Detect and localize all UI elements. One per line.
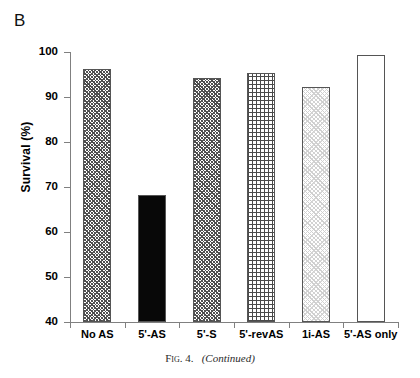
x-tick-mark (125, 322, 126, 328)
y-tick-label: 100 (26, 45, 58, 57)
bar-5-s (193, 78, 221, 322)
x-tick-mark (234, 322, 235, 328)
y-tick-label: 60 (26, 225, 58, 237)
x-tick-mark (398, 322, 399, 328)
bar-5-as (138, 195, 166, 322)
y-axis-title: Survival (%) (19, 87, 33, 227)
x-tick-label: 5'-revAS (239, 328, 283, 340)
caption-continued: (Continued) (202, 352, 255, 364)
bar-5-as-only (357, 55, 385, 322)
y-tick-label: 80 (26, 135, 58, 147)
x-tick-label: 5'-AS (138, 328, 166, 340)
x-tick-label: 5'-S (197, 328, 217, 340)
figure-panel-b: B Survival (%) 405060708090100 Fig. 4. (… (0, 0, 420, 378)
x-tick-label: No AS (81, 328, 114, 340)
x-tick-mark (289, 322, 290, 328)
bar-1i-as (302, 87, 330, 322)
x-tick-label: 1i-AS (302, 328, 330, 340)
bar-5-revas (247, 73, 275, 322)
y-tick-label: 70 (26, 180, 58, 192)
x-tick-mark (70, 322, 71, 328)
y-tick-label: 90 (26, 90, 58, 102)
x-tick-label: 5'-AS only (344, 328, 397, 340)
y-tick-label: 40 (26, 315, 58, 327)
y-tick-label: 50 (26, 270, 58, 282)
bar-no-as (83, 69, 111, 322)
caption-fig-number: Fig. 4. (165, 352, 193, 364)
x-tick-mark (179, 322, 180, 328)
figure-caption: Fig. 4. (Continued) (0, 352, 420, 364)
plot-area (70, 52, 398, 322)
panel-label-b: B (14, 11, 26, 31)
